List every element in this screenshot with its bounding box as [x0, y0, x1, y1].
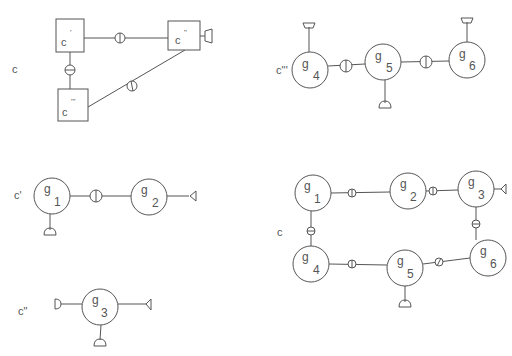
svg-text:c: c [62, 106, 68, 118]
svg-text:g: g [302, 250, 309, 264]
svg-text:c: c [175, 34, 181, 46]
box-c-prime: c ' [56, 19, 84, 52]
port-icon [501, 184, 506, 194]
box-c-triple-prime: c ''' [58, 89, 88, 121]
flattened-c-label: c [277, 226, 283, 238]
svg-text:c: c [61, 36, 67, 48]
link-symbol-vbar-icon [115, 33, 125, 43]
svg-text:g: g [141, 183, 148, 197]
svg-text:''': ''' [71, 97, 76, 106]
component-c2-label: c" [18, 305, 28, 317]
svg-text:g: g [92, 293, 99, 307]
node-g2: g 2 [390, 173, 426, 209]
svg-text:g: g [397, 254, 404, 268]
svg-text:g: g [375, 49, 382, 63]
link-symbol-vbar-icon [340, 60, 352, 72]
component-c1-diagram: c' g 1 g 2 [14, 178, 196, 235]
node-g1: g 1 [34, 178, 70, 214]
link-symbol-hbar-icon [307, 227, 315, 235]
svg-text:2: 2 [152, 196, 159, 210]
link-symbol-slash-icon [435, 258, 443, 266]
svg-text:4: 4 [313, 263, 320, 277]
port-icon [55, 299, 61, 309]
node-g6: g 6 [449, 42, 485, 78]
link-symbol-hbar-icon [472, 220, 480, 228]
svg-text:g: g [480, 244, 487, 258]
svg-text:3: 3 [478, 188, 485, 202]
diagram-canvas: c c ' c " c ' [0, 0, 512, 356]
node-g6: g 6 [470, 240, 506, 276]
svg-text:2: 2 [410, 190, 417, 204]
svg-text:": " [184, 28, 187, 37]
port-icon [146, 299, 151, 310]
component-c2-diagram: c" g 3 [18, 289, 151, 346]
svg-text:g: g [400, 177, 407, 191]
svg-text:6: 6 [469, 59, 476, 73]
link-symbol-slash-icon [127, 81, 137, 91]
link-symbol-hbar-icon [65, 65, 75, 75]
link-symbol-vbar-icon [420, 56, 432, 68]
link-symbol-vbar-icon [429, 187, 437, 195]
svg-text:g: g [302, 57, 309, 71]
node-g5: g 5 [365, 44, 401, 80]
node-g3: g 3 [82, 289, 118, 325]
link-symbol-vbar-icon [348, 189, 356, 197]
svg-text:1: 1 [54, 195, 61, 209]
node-g4: g 4 [293, 246, 329, 282]
flattened-c-diagram: c g 1 g 2 g 3 [277, 171, 506, 307]
node-g5: g 5 [387, 250, 423, 286]
svg-text:g: g [44, 182, 51, 196]
port-icon [94, 339, 106, 346]
node-g1: g 1 [295, 175, 331, 211]
link-symbol-vbar-icon [90, 190, 102, 202]
port-icon [190, 191, 196, 201]
link-symbol-vbar-icon [348, 260, 356, 268]
svg-text:3: 3 [101, 306, 108, 320]
svg-text:g: g [304, 179, 311, 193]
node-g4: g 4 [292, 52, 328, 88]
svg-text:6: 6 [490, 257, 497, 271]
svg-text:5: 5 [407, 267, 414, 281]
component-c1-label: c' [14, 189, 22, 201]
composite-c-label: c [12, 63, 18, 75]
node-g2: g 2 [131, 179, 167, 215]
component-c3-label: c''' [276, 64, 288, 76]
svg-text:1: 1 [314, 192, 321, 206]
link-c2-c3 [88, 50, 185, 107]
port-icon [200, 29, 212, 43]
svg-text:5: 5 [386, 61, 393, 75]
box-c-double-prime: c " [168, 21, 200, 50]
svg-text:g: g [459, 47, 466, 61]
svg-text:4: 4 [313, 69, 320, 83]
node-g3: g 3 [458, 171, 494, 207]
component-c3-diagram: c''' g 4 g 5 g 6 [276, 18, 485, 108]
composite-c-diagram: c c ' c " c ' [12, 19, 212, 121]
svg-text:g: g [468, 175, 475, 189]
